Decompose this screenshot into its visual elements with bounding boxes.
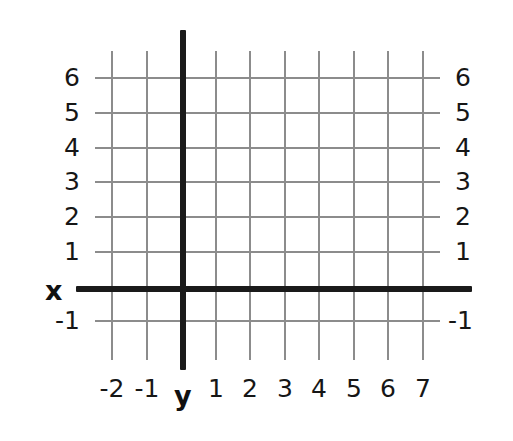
y-axis-line bbox=[180, 30, 186, 370]
y-tick-label-right: -1 bbox=[448, 308, 500, 333]
y-tick-label-right: 5 bbox=[455, 100, 500, 125]
y-tick-label-right: 1 bbox=[455, 239, 500, 264]
gridline-horizontal bbox=[95, 251, 440, 253]
gridline-vertical bbox=[111, 51, 113, 360]
y-tick-label-left: -1 bbox=[38, 308, 80, 333]
gridline-vertical bbox=[422, 51, 424, 360]
y-tick-label-left: 1 bbox=[38, 239, 80, 264]
y-tick-label-left: 6 bbox=[38, 65, 80, 90]
coordinate-grid-figure: 6 5 4 3 2 1 -1 6 5 4 3 2 1 -1 -2 -1 1 2 … bbox=[0, 0, 513, 441]
y-tick-label-right: 4 bbox=[455, 135, 500, 160]
y-tick-label-left: 2 bbox=[38, 204, 80, 229]
y-tick-label-right: 3 bbox=[455, 169, 500, 194]
gridline-vertical bbox=[284, 51, 286, 360]
y-tick-label-right: 2 bbox=[455, 204, 500, 229]
x-axis-label: x bbox=[45, 277, 62, 304]
gridline-vertical bbox=[353, 51, 355, 360]
y-tick-label-right: 6 bbox=[455, 65, 500, 90]
y-tick-label-left: 3 bbox=[38, 169, 80, 194]
y-tick-label-left: 4 bbox=[38, 135, 80, 160]
y-tick-label-left: 5 bbox=[38, 100, 80, 125]
gridline-horizontal bbox=[95, 77, 440, 79]
gridline-vertical bbox=[249, 51, 251, 360]
x-axis-line bbox=[76, 286, 472, 292]
gridline-horizontal bbox=[95, 320, 440, 322]
gridline-vertical bbox=[215, 51, 217, 360]
y-axis-label: y bbox=[174, 382, 192, 409]
gridline-horizontal bbox=[95, 147, 440, 149]
gridline-horizontal bbox=[95, 181, 440, 183]
gridline-vertical bbox=[387, 51, 389, 360]
gridline-vertical bbox=[318, 51, 320, 360]
x-tick-label: 7 bbox=[399, 376, 447, 401]
x-tick-label: -1 bbox=[123, 376, 171, 401]
gridline-horizontal bbox=[95, 216, 440, 218]
gridline-horizontal bbox=[95, 112, 440, 114]
gridline-vertical bbox=[146, 51, 148, 360]
